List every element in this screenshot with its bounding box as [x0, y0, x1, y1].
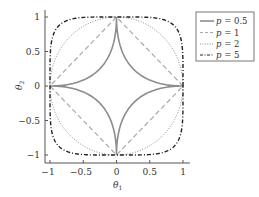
curve-p-5	[50, 17, 183, 155]
lp-norm-chart: 1 0.5 0 −0.5 −1 −1 −0.5 0 0.5 1 θ1 θ2	[0, 0, 259, 197]
curve-p-0.5	[50, 17, 183, 155]
x-tick-label: 0.5	[143, 167, 158, 177]
svg-text:θ1: θ1	[113, 180, 122, 191]
legend: p = 0.5 p = 1 p = 2 p = 5	[196, 12, 254, 61]
y-tick-label: 0.5	[26, 47, 41, 57]
x-tick-label: −1	[41, 167, 54, 177]
svg-text:p = 1: p = 1	[216, 28, 239, 38]
svg-text:p = 2: p = 2	[216, 39, 239, 49]
y-tick-label: −1	[27, 150, 40, 160]
x-tick-label: 1	[180, 167, 186, 177]
x-axis-label: θ1	[113, 180, 122, 191]
svg-text:p = 5: p = 5	[216, 50, 239, 60]
svg-text:θ2: θ2	[14, 81, 25, 90]
curve-p-1	[50, 17, 183, 155]
y-tick-label: −0.5	[18, 116, 40, 126]
y-tick-label: 1	[34, 12, 40, 22]
x-tick-labels: −1 −0.5 0 0.5 1	[41, 167, 186, 177]
curve-p-2	[50, 17, 183, 155]
plot-curves	[50, 17, 183, 155]
x-tick-label: 0	[114, 167, 120, 177]
x-tick-label: −0.5	[70, 167, 92, 177]
y-axis-label: θ2	[14, 81, 25, 90]
svg-text:p = 0.5: p = 0.5	[216, 16, 248, 26]
y-tick-label: 0	[34, 81, 40, 91]
